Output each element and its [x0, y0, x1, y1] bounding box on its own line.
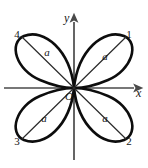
y-axis-label: y: [63, 11, 70, 25]
petal-1-radius-label: a: [102, 50, 108, 62]
rose-curve-figure: O y x 1 2 3 4 a a a a: [0, 0, 148, 168]
petal-4-number: 4: [14, 28, 20, 40]
petal-2-number: 2: [126, 135, 132, 147]
petal-2-radius-label: a: [102, 112, 108, 124]
petal-4-radius-label: a: [44, 46, 50, 58]
petal-1-number: 1: [126, 28, 132, 40]
petal-3-radius-label: a: [41, 112, 47, 124]
figure-canvas: O y x 1 2 3 4 a a a a: [0, 0, 148, 168]
petal-3-number: 3: [14, 135, 20, 147]
x-axis-label: x: [135, 86, 142, 100]
origin-label: O: [65, 90, 73, 102]
